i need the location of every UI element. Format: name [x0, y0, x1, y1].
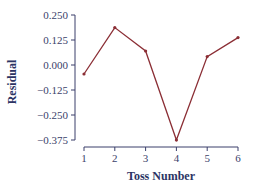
- x-tick-label: 4: [174, 152, 180, 164]
- x-tick-label: 2: [112, 152, 118, 164]
- x-tick-label: 3: [143, 152, 149, 164]
- data-point-marker: [82, 72, 85, 75]
- y-tick-label: 0.125: [43, 34, 68, 46]
- data-point-marker: [144, 49, 147, 52]
- x-tick-label: 5: [204, 152, 210, 164]
- x-tick-label: 6: [235, 152, 241, 164]
- x-tick-label: 1: [81, 152, 87, 164]
- residual-plot: 0.2500.1250.000−0.125−0.250−0.375 123456…: [0, 0, 264, 193]
- data-point-marker: [236, 36, 239, 39]
- y-axis-title: Residual: [5, 59, 19, 104]
- data-point-marker: [113, 26, 116, 29]
- x-axis-title: Toss Number: [127, 169, 196, 183]
- y-tick-label: −0.375: [37, 134, 68, 146]
- y-axis: 0.2500.1250.000−0.125−0.250−0.375: [37, 9, 75, 146]
- data-point-marker: [206, 55, 209, 58]
- series-line: [84, 28, 238, 140]
- x-axis: 123456: [81, 147, 241, 164]
- series-residual: [82, 26, 239, 142]
- y-tick-label: 0.250: [43, 9, 68, 21]
- y-tick-label: −0.250: [37, 109, 68, 121]
- data-point-marker: [175, 138, 178, 141]
- y-tick-label: −0.125: [37, 84, 68, 96]
- y-tick-label: 0.000: [43, 59, 68, 71]
